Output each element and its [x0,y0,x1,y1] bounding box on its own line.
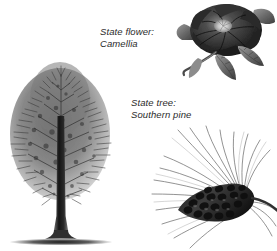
camellia-blossom [190,4,262,56]
illustration-page: State flower: Camellia State tree: South… [0,0,277,251]
state-flower-label-line2: Camellia [100,38,154,50]
camellia-illustration [176,0,277,88]
state-tree-label: State tree: Southern pine [131,97,191,120]
pine-cone-branch-illustration [148,124,277,251]
tree-trunk-flare [42,230,80,240]
tree-ground-shadow [9,239,113,246]
pine-cone [178,184,254,222]
state-tree-label-line1: State tree: [131,97,191,109]
state-flower-label-line1: State flower: [100,26,154,38]
state-flower-label: State flower: Camellia [100,26,154,49]
pine-tree-illustration [4,58,120,251]
state-tree-label-line2: Southern pine [131,109,191,121]
